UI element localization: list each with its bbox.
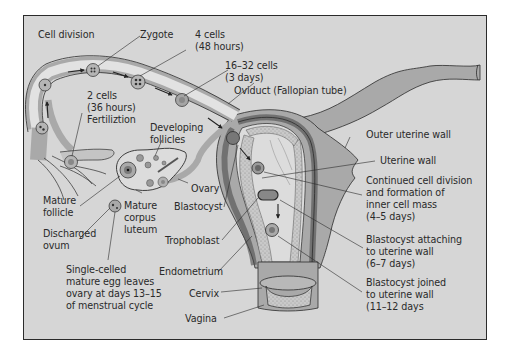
four-cell-stage (131, 75, 145, 89)
attaching-blastocyst (258, 190, 278, 200)
label-attaching: Blastocyst attaching to uterine wall (6–… (366, 234, 462, 270)
label-two-cells: 2 cells (36 hours) Fertiliztion (87, 90, 136, 126)
ovary (117, 148, 187, 190)
label-endometrium: Endometrium (159, 266, 223, 278)
right-oviduct (300, 65, 480, 134)
zygote-stage (87, 64, 100, 77)
label-uterine-wall: Uterine wall (380, 155, 436, 167)
early-blastocyst (227, 132, 240, 145)
label-zygote: Zygote (140, 29, 173, 41)
label-continued-division: Continued cell division and formation of… (366, 175, 472, 223)
discharged-ovum (109, 200, 121, 212)
label-developing-follicles: Developing follicles (150, 122, 203, 146)
label-vagina: Vagina (185, 313, 217, 325)
label-oviduct: Oviduct (Fallopian tube) (234, 85, 347, 97)
morula-stage (176, 94, 189, 107)
label-outer-uterine-wall: Outer uterine wall (366, 129, 451, 141)
label-trophoblast: Trophoblast (165, 235, 219, 247)
fertilized-egg (65, 156, 78, 169)
label-four-cells: 4 cells (48 hours) (195, 29, 244, 53)
cervix (258, 262, 318, 311)
fimbriae (38, 149, 114, 200)
label-ovary: Ovary (191, 183, 219, 195)
label-discharged-ovum: Discharged ovum (43, 228, 96, 252)
label-sixteen-cells: 16–32 cells (3 days) (225, 60, 278, 84)
label-single-celled: Single-celled mature egg leaves ovary at… (66, 264, 162, 312)
blastocyst-inner-mass (252, 162, 264, 174)
label-joined: Blastocyst joined to uterine wall (11–12… (366, 277, 446, 313)
label-cell-division: Cell division (38, 29, 94, 41)
label-cervix: Cervix (189, 288, 219, 300)
cell-division-stage (39, 79, 51, 91)
label-mature-corpus-luteum: Mature corpus luteum (124, 200, 157, 236)
implanted-blastocyst (266, 224, 279, 237)
label-blastocyst: Blastocyst (174, 201, 222, 213)
two-cell-stage (36, 122, 48, 134)
label-mature-follicle: Mature follicle (43, 195, 76, 219)
